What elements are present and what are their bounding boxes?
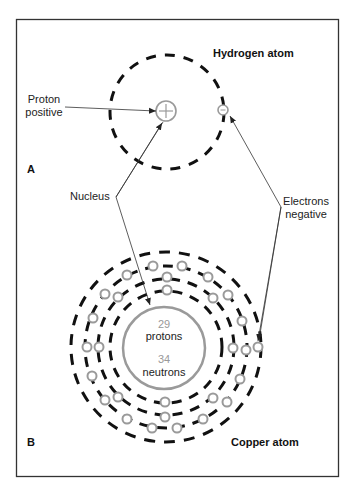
copper-atom-title: Copper atom	[231, 436, 299, 449]
panel-a-label: A	[27, 163, 35, 175]
protons-label: protons	[134, 330, 194, 342]
proton-label: Proton positive	[22, 93, 66, 119]
hydrogen-electron	[218, 105, 228, 115]
neutrons-label: neutrons	[134, 366, 194, 378]
hydrogen-atom-title: Hydrogen atom	[213, 47, 294, 60]
proton-label-line2: positive	[22, 106, 66, 119]
panel-b-label: B	[27, 436, 35, 448]
neutrons-count: 34	[134, 353, 194, 365]
electrons-label-line1: Electrons	[281, 195, 331, 208]
electrons-label: Electrons negative	[281, 195, 331, 221]
hydrogen-proton	[156, 101, 176, 121]
proton-label-line1: Proton	[22, 93, 66, 106]
figure-frame	[17, 20, 339, 477]
nucleus-label: Nucleus	[70, 190, 110, 203]
electrons-label-line2: negative	[281, 208, 331, 221]
atom-diagram	[0, 0, 352, 488]
protons-count: 29	[134, 318, 194, 330]
